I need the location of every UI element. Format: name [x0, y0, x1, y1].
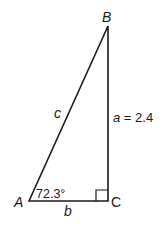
angle-label-a: 72.3°	[36, 187, 65, 201]
triangle	[29, 26, 108, 201]
vertex-label-a: A	[13, 194, 23, 210]
side-label-c: c	[54, 105, 61, 121]
vertex-label-b: B	[102, 9, 111, 25]
side-label-b: b	[64, 203, 72, 219]
triangle-diagram: B A C c a = 2.4 b 72.3°	[0, 0, 164, 228]
side-label-a: a = 2.4	[113, 110, 153, 125]
right-angle-marker	[96, 190, 108, 201]
vertex-label-c: C	[111, 194, 121, 210]
